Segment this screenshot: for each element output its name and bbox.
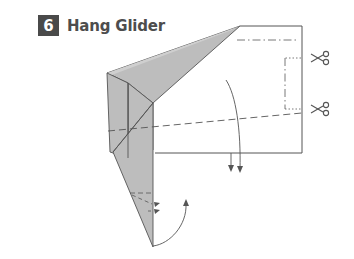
paper-sheet (155, 26, 302, 153)
scissors-icon (311, 51, 329, 64)
scissors-icon (311, 102, 329, 115)
folded-wing (107, 26, 240, 247)
fold-arrow-icon (226, 80, 243, 173)
rotate-arrow-icon (153, 199, 189, 246)
folding-diagram (0, 0, 354, 259)
cut-lines (285, 58, 301, 109)
